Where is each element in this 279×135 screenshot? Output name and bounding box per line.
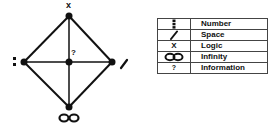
colon-icon <box>13 57 16 66</box>
infinity-icon <box>60 115 79 122</box>
edge-top-left <box>24 16 69 62</box>
legend-row-number: Number <box>158 19 268 30</box>
legend-table: Number Space X Logic Infinity <box>157 18 268 74</box>
symbol-diamond-diagram: x ? <box>0 0 140 135</box>
question-icon: ? <box>172 64 176 71</box>
x-icon: X <box>171 41 176 50</box>
legend-symbol-cell: X <box>158 41 191 52</box>
node-left <box>21 59 28 66</box>
logic-x-label: x <box>66 1 71 10</box>
legend-label-logic: Logic <box>191 41 268 52</box>
node-bottom <box>66 104 73 111</box>
legend-symbol-cell: ? <box>158 63 191 74</box>
legend-label-space: Space <box>191 30 268 41</box>
information-question-label: ? <box>71 49 76 57</box>
triple-dot-icon <box>171 19 177 29</box>
legend-row-logic: X Logic <box>158 41 268 52</box>
edge-bottom-right <box>69 62 112 107</box>
legend-label-number: Number <box>191 19 268 30</box>
node-center <box>66 59 73 66</box>
node-top <box>66 13 73 20</box>
edge-bottom-left <box>24 62 69 107</box>
node-right <box>109 59 116 66</box>
legend-symbol-cell <box>158 30 191 41</box>
legend-row-infinity: Infinity <box>158 52 268 63</box>
legend-symbol-cell <box>158 52 191 63</box>
legend-label-information: Information <box>191 63 268 74</box>
infinity-icon <box>164 52 184 62</box>
legend-label-infinity: Infinity <box>191 52 268 63</box>
legend-row-information: ? Information <box>158 63 268 74</box>
legend-row-space: Space <box>158 30 268 41</box>
slash-icon <box>121 60 127 68</box>
diamond-graph <box>0 0 140 135</box>
slash-icon <box>169 30 179 40</box>
legend-symbol-cell <box>158 19 191 30</box>
